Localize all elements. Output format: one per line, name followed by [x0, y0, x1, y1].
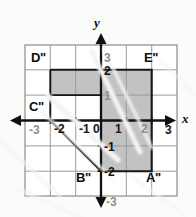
coordinate-plane-figure: x y -3 -2 -1 0 1 2 3 3 2 1 -1 -2 -3 A" B… [0, 0, 196, 217]
graph-canvas [0, 0, 196, 217]
